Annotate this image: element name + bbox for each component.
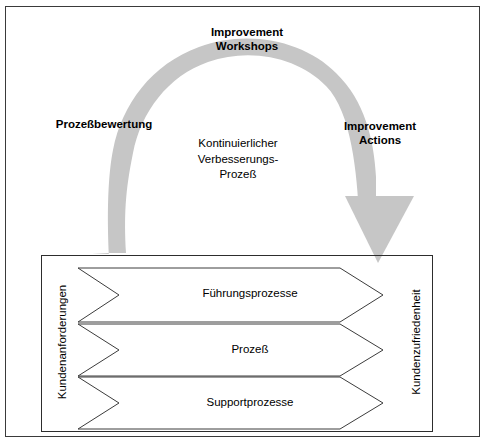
chevron-label-prozess: Prozeß [140, 343, 360, 355]
chevron-label-fuehrungsprozesse: Führungsprozesse [140, 287, 360, 299]
label-kundenzufriedenheit: Kundenzufriedenheit [410, 272, 422, 412]
label-kundenanforderungen: Kundenanforderungen [56, 272, 68, 412]
chevron-label-supportprozesse: Supportprozesse [140, 396, 360, 408]
diagram-canvas: Improvement Workshops Prozeßbewertung Im… [0, 0, 489, 447]
